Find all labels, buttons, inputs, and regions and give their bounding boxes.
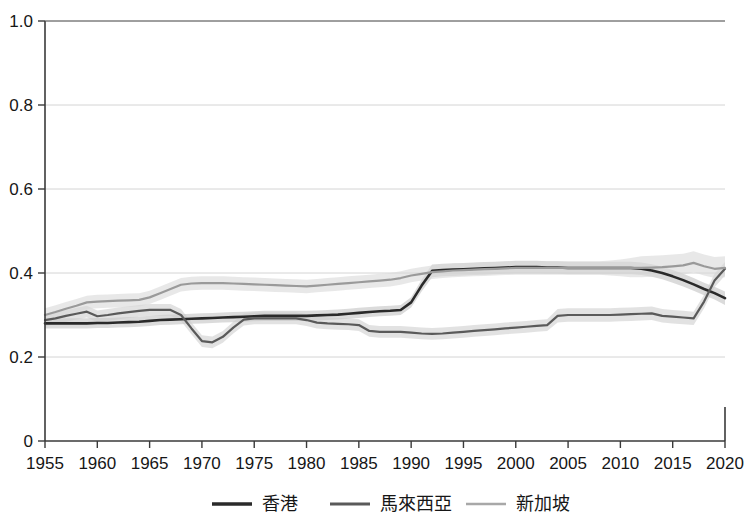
x-tick-label: 2015 bbox=[654, 454, 692, 473]
x-tick-label: 1965 bbox=[131, 454, 169, 473]
y-tick-label: 1.0 bbox=[9, 12, 33, 31]
y-tick-label: 0.4 bbox=[9, 264, 33, 283]
x-tick-label: 2020 bbox=[706, 454, 744, 473]
x-tick-label: 2010 bbox=[601, 454, 639, 473]
legend-label-1: 香港 bbox=[262, 493, 298, 514]
x-tick-label: 1985 bbox=[340, 454, 378, 473]
x-tick-label: 2000 bbox=[497, 454, 535, 473]
legend-label-3: 新加坡 bbox=[516, 493, 570, 514]
plot-axes bbox=[38, 21, 725, 448]
confidence-bands bbox=[45, 251, 725, 348]
x-tick-label: 1955 bbox=[26, 454, 64, 473]
legend-label-2: 馬來西亞 bbox=[380, 493, 452, 514]
line-chart: 00.20.40.60.81.0 19551960196519701975198… bbox=[0, 0, 748, 525]
chart-container: 00.20.40.60.81.0 19551960196519701975198… bbox=[0, 0, 748, 525]
x-tick-label: 1990 bbox=[392, 454, 430, 473]
x-tick-label: 1960 bbox=[78, 454, 116, 473]
x-tick-label: 2005 bbox=[549, 454, 587, 473]
y-tick-label: 0.8 bbox=[9, 96, 33, 115]
x-tick-label: 1975 bbox=[235, 454, 273, 473]
y-tick-label: 0.2 bbox=[9, 348, 33, 367]
x-tick-label: 1970 bbox=[183, 454, 221, 473]
x-tick-label: 1980 bbox=[288, 454, 326, 473]
y-tick-label: 0.6 bbox=[9, 180, 33, 199]
x-axis-tick-labels: 1955196019651970197519801985199019952000… bbox=[26, 454, 744, 473]
x-tick-label: 1995 bbox=[445, 454, 483, 473]
y-axis-tick-labels: 00.20.40.60.81.0 bbox=[9, 12, 33, 451]
y-tick-label: 0 bbox=[24, 432, 33, 451]
chart-legend: 香港馬來西亞新加坡 bbox=[212, 493, 570, 514]
